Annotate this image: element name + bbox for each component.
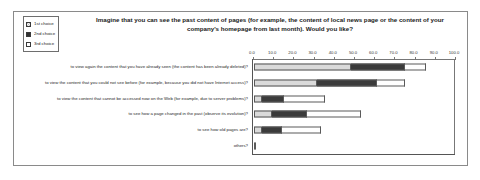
legend-item-1st-choice: 1st choice bbox=[26, 19, 55, 29]
legend-item-3rd-choice: 3rd choice bbox=[26, 39, 55, 49]
x-tick-label: 30.0 bbox=[309, 50, 317, 55]
x-axis-tick bbox=[435, 57, 436, 60]
category-label: others? bbox=[28, 143, 248, 149]
category-label: to see how old pages are? bbox=[28, 127, 248, 133]
x-tick-label: 80.0 bbox=[410, 50, 418, 55]
x-tick-label: 100.0 bbox=[449, 50, 459, 55]
legend-label-2nd-choice: 2nd choice bbox=[34, 31, 55, 37]
x-tick-label: 90.0 bbox=[430, 50, 438, 55]
x-tick-label: 20.0 bbox=[288, 50, 296, 55]
chart-legend: 1st choice 2nd choice 3rd choice bbox=[23, 16, 59, 52]
bar-segment-3rd-choice[interactable] bbox=[405, 63, 425, 70]
bar-segment-3rd-choice[interactable] bbox=[377, 79, 405, 86]
bar-segment-1st-choice[interactable] bbox=[254, 95, 262, 102]
bar-segment-2nd-choice[interactable] bbox=[351, 63, 406, 70]
category-label: to view the content that you could not s… bbox=[28, 80, 248, 86]
bar-row[interactable] bbox=[254, 79, 405, 86]
x-tick-label: 50.0 bbox=[349, 50, 357, 55]
bar-segment-1st-choice[interactable] bbox=[254, 79, 317, 86]
legend-item-2nd-choice: 2nd choice bbox=[26, 29, 55, 39]
x-tick-label: 0.0 bbox=[249, 50, 255, 55]
x-axis-tick bbox=[253, 57, 254, 60]
x-axis-tick bbox=[354, 57, 355, 60]
legend-swatch-2nd-choice-icon bbox=[26, 32, 31, 37]
x-axis-tick bbox=[334, 57, 335, 60]
bar-row[interactable] bbox=[254, 95, 325, 102]
bar-segment-2nd-choice[interactable] bbox=[262, 127, 282, 134]
bar-row[interactable] bbox=[254, 143, 256, 150]
x-axis-tick-labels: 0.010.020.030.040.050.060.070.080.090.01… bbox=[252, 50, 454, 59]
x-axis-tick bbox=[293, 57, 294, 60]
bar-segment-3rd-choice[interactable] bbox=[282, 127, 320, 134]
category-label: to view again the content that you have … bbox=[28, 64, 248, 70]
chart-plot-wrapper: 0.010.020.030.040.050.060.070.080.090.01… bbox=[14, 50, 467, 165]
x-axis-tick bbox=[374, 57, 375, 60]
bar-segment-2nd-choice[interactable] bbox=[262, 95, 284, 102]
x-tick-label: 70.0 bbox=[389, 50, 397, 55]
x-axis-tick bbox=[394, 57, 395, 60]
x-tick-label: 40.0 bbox=[329, 50, 337, 55]
x-axis-tick bbox=[273, 57, 274, 60]
x-tick-label: 60.0 bbox=[369, 50, 377, 55]
category-label: to see how a page changed in the past (o… bbox=[28, 112, 248, 118]
legend-swatch-3rd-choice-icon bbox=[26, 42, 31, 47]
legend-label-1st-choice: 1st choice bbox=[34, 21, 54, 27]
bar-row[interactable] bbox=[254, 111, 361, 118]
x-axis-tick bbox=[455, 57, 456, 60]
x-tick-label: 10.0 bbox=[268, 50, 276, 55]
chart-figure: 1st choice 2nd choice 3rd choice Imagine… bbox=[13, 11, 468, 166]
bar-row[interactable] bbox=[254, 127, 321, 134]
bar-segment-1st-choice[interactable] bbox=[254, 127, 262, 134]
bar-segment-2nd-choice[interactable] bbox=[317, 79, 378, 86]
x-axis-tick bbox=[415, 57, 416, 60]
chart-title: Imagine that you can see the past conten… bbox=[90, 15, 450, 33]
bar-segment-1st-choice[interactable] bbox=[254, 63, 351, 70]
bar-segment-1st-choice[interactable] bbox=[254, 143, 256, 150]
legend-swatch-1st-choice-icon bbox=[26, 22, 31, 27]
bar-segment-2nd-choice[interactable] bbox=[272, 111, 306, 118]
bar-segment-1st-choice[interactable] bbox=[254, 111, 272, 118]
plot-area bbox=[252, 59, 455, 155]
x-axis-tick bbox=[314, 57, 315, 60]
bar-segment-3rd-choice[interactable] bbox=[284, 95, 324, 102]
bar-segment-3rd-choice[interactable] bbox=[307, 111, 362, 118]
category-label: to view the content that cannot be acces… bbox=[28, 96, 248, 102]
category-axis-labels: to view again the content that you have … bbox=[28, 59, 250, 154]
bar-row[interactable] bbox=[254, 63, 426, 70]
legend-label-3rd-choice: 3rd choice bbox=[34, 41, 54, 47]
